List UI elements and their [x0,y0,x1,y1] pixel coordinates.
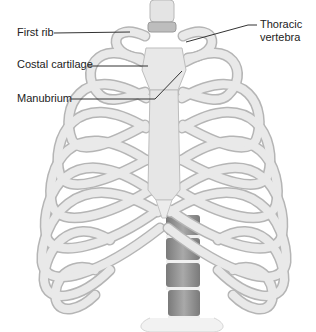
label-manubrium: Manubrium [17,92,72,105]
label-first-rib: First rib [17,26,54,39]
rib-cage-illustration [0,0,316,332]
label-thoracic-line2: vertebra [260,31,302,44]
label-thoracic-line1: Thoracic [260,18,302,31]
label-thoracic-vertebra: Thoracic vertebra [260,18,302,44]
ribs-left [42,32,160,309]
label-costal-cartilage: Costal cartilage [17,58,93,71]
pelvis-hint [141,318,223,332]
rib-cage-diagram: First rib Costal cartilage Manubrium Tho… [0,0,316,332]
manubrium-shape [142,48,186,90]
sternum-body [148,90,180,200]
